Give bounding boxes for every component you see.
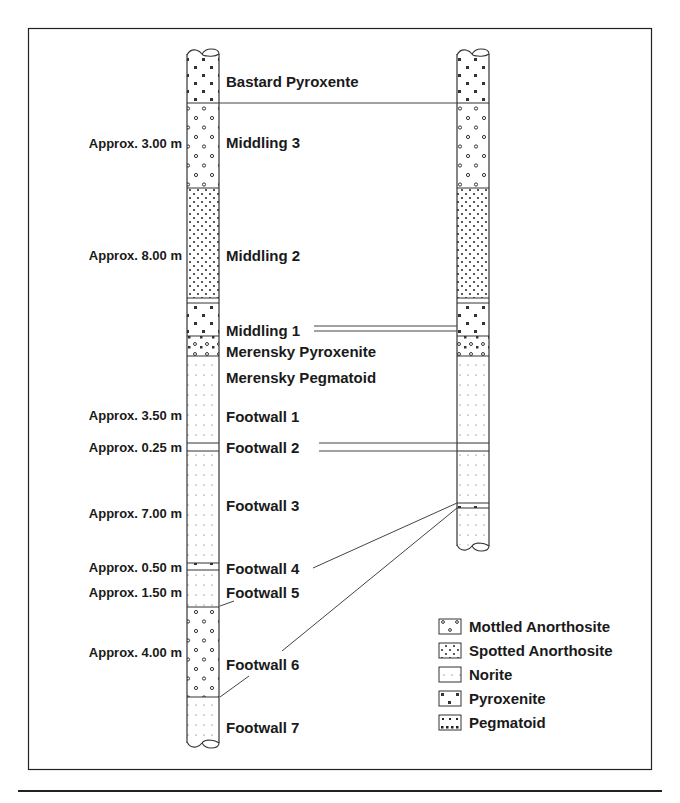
thickness-footwall-6: Approx. 4.00 m [89,645,182,660]
legend-label: Spotted Anorthosite [469,642,613,659]
thickness-footwall-5: Approx. 1.50 m [89,585,182,600]
correlation-lines [219,103,457,697]
legend-item-pyroxenite: Pyroxenite [439,690,546,707]
layer-label-footwall-4: Footwall 4 [226,560,300,577]
legend-label: Pyroxenite [469,690,546,707]
thickness-footwall-3: Approx. 7.00 m [89,506,182,521]
layer-label-footwall-5: Footwall 5 [226,584,299,601]
stratigraphic-column-diagram: Bastard Pyroxente Middling 3 Middling 2 … [0,0,680,803]
layer-label-merensky-pyroxenite: Merensky Pyroxenite [226,343,376,360]
legend-item-pegmatoid: Pegmatoid [439,714,546,731]
layer-label-middling-1: Middling 1 [226,322,300,339]
layer-name-labels: Bastard Pyroxente Middling 3 Middling 2 … [226,73,376,736]
legend: Mottled Anorthosite Spotted Anorthosite … [439,618,613,731]
layer-label-footwall-3: Footwall 3 [226,497,299,514]
layer-label-footwall-2: Footwall 2 [226,439,299,456]
left-column [187,49,219,748]
thickness-footwall-2: Approx. 0.25 m [89,440,182,455]
norite-swatch-icon [439,667,461,682]
layer-label-footwall-1: Footwall 1 [226,408,299,425]
layer-label-merensky-pegmatoid: Merensky Pegmatoid [226,369,376,386]
legend-label: Pegmatoid [469,714,546,731]
legend-item-spotted-anorthosite: Spotted Anorthosite [439,642,613,659]
thickness-labels: Approx. 3.00 m Approx. 8.00 m Approx. 3.… [89,136,182,660]
thickness-footwall-1: Approx. 3.50 m [89,408,182,423]
layer-label-footwall-6: Footwall 6 [226,656,299,673]
layer-label-middling-2: Middling 2 [226,247,300,264]
spotted-anorthosite-swatch-icon [439,643,461,658]
thickness-middling-3: Approx. 3.00 m [89,136,182,151]
legend-item-norite: Norite [439,666,512,683]
thickness-footwall-4: Approx. 0.50 m [89,560,182,575]
legend-label: Norite [469,666,512,683]
layer-label-footwall-7: Footwall 7 [226,719,299,736]
right-column [457,49,489,551]
layer-label-middling-3: Middling 3 [226,134,300,151]
legend-item-mottled-anorthosite: Mottled Anorthosite [439,618,610,635]
thickness-middling-2: Approx. 8.00 m [89,248,182,263]
layer-label-bastard-pyroxente: Bastard Pyroxente [226,73,359,90]
legend-label: Mottled Anorthosite [469,618,610,635]
